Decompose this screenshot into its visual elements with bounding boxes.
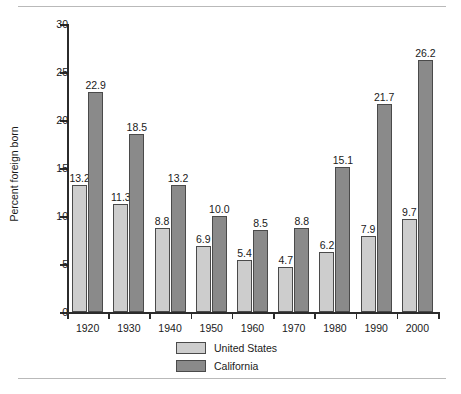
bar-value-label: 7.9 <box>361 223 376 235</box>
bar-california: 21.7 <box>377 104 392 312</box>
y-tick-label: 30 <box>42 18 68 30</box>
legend-label-united-states: United States <box>214 342 277 354</box>
x-tick-label: 1990 <box>356 322 397 334</box>
x-tick-mark <box>108 312 110 319</box>
x-tick-mark <box>397 312 399 319</box>
bar-united-states: 5.4 <box>237 260 252 312</box>
bar-group: 5.48.5 <box>232 24 273 312</box>
bar-value-label: 15.1 <box>333 154 353 166</box>
x-tick-mark <box>149 312 151 319</box>
x-tick-label: 1940 <box>149 322 190 334</box>
bar-value-label: 11.3 <box>111 191 131 203</box>
x-tick-label: 1920 <box>67 322 108 334</box>
x-tick-label: 1930 <box>108 322 149 334</box>
figure-page: Percent foreign born 051015202530 192019… <box>0 0 461 394</box>
bar-california: 26.2 <box>418 60 433 312</box>
x-tick-label: 1970 <box>273 322 314 334</box>
bar-groups: 13.222.911.318.58.813.26.910.05.48.54.78… <box>67 24 438 312</box>
legend-item-united-states: United States <box>176 340 277 355</box>
bar-group: 6.215.1 <box>314 24 355 312</box>
bar-value-label: 5.4 <box>237 247 252 259</box>
bar-group: 7.921.7 <box>356 24 397 312</box>
bar-value-label: 10.0 <box>209 203 229 215</box>
bar-group: 13.222.9 <box>67 24 108 312</box>
bar-group: 4.78.8 <box>273 24 314 312</box>
y-tick-label: 25 <box>42 66 68 78</box>
x-tick-label: 1950 <box>191 322 232 334</box>
bar-value-label: 18.5 <box>127 121 147 133</box>
y-axis-title: Percent foreign born <box>8 94 20 254</box>
bar-california: 18.5 <box>129 134 144 312</box>
bar-chart: Percent foreign born 051015202530 192019… <box>0 0 461 394</box>
legend-swatch-california <box>176 360 206 372</box>
bar-value-label: 26.2 <box>415 47 435 59</box>
bar-california: 15.1 <box>335 167 350 312</box>
x-tick-mark <box>356 312 358 319</box>
bar-united-states: 6.9 <box>196 246 211 312</box>
bar-united-states: 4.7 <box>278 267 293 312</box>
x-tick-mark <box>314 312 316 319</box>
bar-value-label: 8.8 <box>155 215 170 227</box>
bar-group: 9.726.2 <box>397 24 438 312</box>
y-tick-label: 10 <box>42 210 68 222</box>
x-tick-mark <box>273 312 275 319</box>
x-tick-label: 2000 <box>397 322 438 334</box>
legend-label-california: California <box>214 360 258 372</box>
bar-value-label: 13.2 <box>69 172 89 184</box>
bar-value-label: 4.7 <box>278 254 293 266</box>
bar-california: 8.5 <box>253 230 268 312</box>
legend-item-california: California <box>176 358 277 373</box>
bar-united-states: 11.3 <box>113 204 128 312</box>
bar-group: 6.910.0 <box>191 24 232 312</box>
x-tick-label: 1960 <box>232 322 273 334</box>
bar-value-label: 22.9 <box>85 79 105 91</box>
x-tick-mark <box>438 312 440 319</box>
bar-value-label: 8.8 <box>294 215 309 227</box>
bar-california: 8.8 <box>294 228 309 312</box>
bar-value-label: 8.5 <box>253 217 268 229</box>
bar-value-label: 13.2 <box>168 172 188 184</box>
bar-value-label: 6.2 <box>320 239 335 251</box>
bar-group: 11.318.5 <box>108 24 149 312</box>
legend-swatch-united-states <box>176 342 206 354</box>
bar-group: 8.813.2 <box>149 24 190 312</box>
x-tick-mark <box>67 312 69 319</box>
bar-california: 22.9 <box>88 92 103 312</box>
bar-california: 10.0 <box>212 216 227 312</box>
y-tick-label: 5 <box>42 258 68 270</box>
x-axis-line <box>67 312 438 314</box>
bar-united-states: 7.9 <box>361 236 376 312</box>
y-tick-label: 20 <box>42 114 68 126</box>
bar-value-label: 21.7 <box>374 91 394 103</box>
y-tick-label: 0 <box>42 306 68 318</box>
bar-united-states: 9.7 <box>402 219 417 312</box>
bar-value-label: 9.7 <box>402 206 417 218</box>
bar-value-label: 6.9 <box>196 233 211 245</box>
chart-legend: United States California <box>176 340 277 376</box>
x-tick-label: 1980 <box>314 322 355 334</box>
bar-california: 13.2 <box>171 185 186 312</box>
bar-united-states: 6.2 <box>319 252 334 312</box>
x-tick-mark <box>191 312 193 319</box>
bar-united-states: 13.2 <box>72 185 87 312</box>
bar-united-states: 8.8 <box>155 228 170 312</box>
y-tick-label: 15 <box>42 162 68 174</box>
x-tick-mark <box>232 312 234 319</box>
